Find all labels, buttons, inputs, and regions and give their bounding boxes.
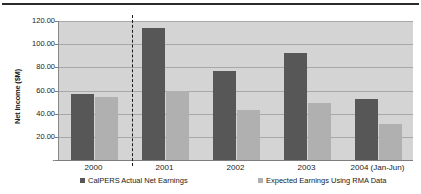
gridline: [59, 44, 413, 45]
x-tick-label: 2002: [200, 163, 271, 172]
x-axis-tick-labels: 20002001200220032004 (Jan-Jun): [58, 163, 413, 175]
y-tick-label: 80.00: [3, 63, 55, 71]
bar-2003-series-2: [308, 103, 331, 160]
bar-2000-series-1: [71, 94, 94, 160]
legend-entry-2: Expected Earnings Using RMA Data: [258, 176, 386, 185]
forecast-divider-line: [132, 15, 133, 166]
bar-2004-jan-jun--series-1: [355, 99, 378, 160]
y-tick-label: 40.00: [3, 110, 55, 118]
gridline: [59, 91, 413, 92]
bar-2000-series-2: [95, 97, 118, 160]
chart-legend: CalPERS Actual Net EarningsExpected Earn…: [58, 176, 413, 188]
y-tick-label: 20.00: [3, 133, 55, 141]
y-tick-label: 120.00: [3, 17, 55, 25]
bar-2003-series-1: [284, 53, 307, 160]
y-axis-tick-labels: -20.0040.0060.0080.00100.00120.00: [0, 0, 55, 194]
x-tick-label: 2004 (Jan-Jun): [342, 163, 413, 172]
y-tick-label: 60.00: [3, 87, 55, 95]
legend-swatch-icon: [80, 178, 85, 183]
gridline: [59, 67, 413, 68]
x-axis-baseline: [58, 160, 413, 161]
x-tick-label: 2000: [58, 163, 129, 172]
y-tick-label: 100.00: [3, 40, 55, 48]
header-divider-rule: [2, 3, 419, 5]
legend-label: CalPERS Actual Net Earnings: [88, 176, 188, 185]
net-income-bar-chart: Net Income ($M) -20.0040.0060.0080.00100…: [0, 0, 421, 194]
x-tick-label: 2001: [129, 163, 200, 172]
gridline: [59, 21, 413, 22]
bar-2001-series-2: [166, 91, 189, 161]
y-tick-label: -: [3, 156, 55, 164]
bar-2002-series-2: [237, 110, 260, 160]
x-tick-label: 2003: [271, 163, 342, 172]
bar-2001-series-1: [142, 28, 165, 160]
bar-2004-jan-jun--series-2: [379, 124, 402, 160]
bar-2002-series-1: [213, 71, 236, 160]
legend-swatch-icon: [258, 178, 263, 183]
plot-area: [58, 21, 413, 160]
legend-entry-1: CalPERS Actual Net Earnings: [80, 176, 188, 185]
legend-label: Expected Earnings Using RMA Data: [266, 176, 386, 185]
